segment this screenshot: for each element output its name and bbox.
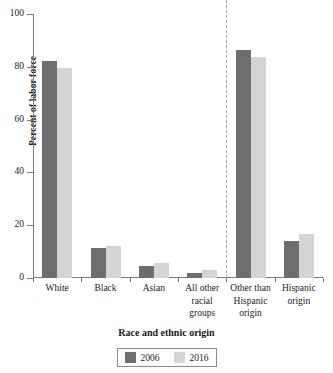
bar-chart: Percent of labor force 020406080100 Whit… (0, 0, 333, 373)
bar-2006-2 (139, 266, 154, 278)
bar-2016-1 (106, 246, 121, 278)
y-tick-label: 40 (15, 165, 25, 178)
legend-item-2016: 2016 (174, 352, 209, 363)
plot-area: 020406080100 (33, 14, 323, 278)
x-axis-title: Race and ethnic origin (0, 327, 333, 338)
legend-swatch-2006 (125, 352, 136, 363)
bar-2016-2 (154, 263, 169, 278)
dashed-divider-line (226, 0, 227, 278)
y-tick-label: 20 (15, 218, 25, 231)
y-tick: 100 (27, 14, 33, 15)
chart-legend: 2006 2016 (117, 348, 217, 367)
bar-2016-4 (251, 57, 266, 278)
x-category-label: Hispanicorigin (271, 282, 327, 307)
bar-2016-5 (299, 234, 314, 278)
bar-2006-5 (284, 241, 299, 278)
y-axis-line (33, 14, 34, 279)
y-tick-label: 80 (15, 60, 25, 73)
bar-2016-3 (202, 270, 217, 278)
x-category-label-line: origin (222, 307, 278, 320)
legend-item-2006: 2006 (125, 352, 160, 363)
bar-2006-1 (91, 248, 106, 278)
y-tick: 40 (27, 172, 33, 173)
y-tick: 20 (27, 225, 33, 226)
legend-swatch-2016 (174, 352, 185, 363)
y-tick-label: 60 (15, 113, 25, 126)
y-tick-label: 0 (19, 271, 24, 284)
y-tick: 80 (27, 67, 33, 68)
bar-2016-0 (57, 68, 72, 278)
x-category-label-line: Hispanic (271, 282, 327, 295)
legend-label-2006: 2006 (141, 353, 160, 363)
bar-2006-4 (236, 50, 251, 278)
legend-label-2016: 2016 (190, 353, 209, 363)
y-tick: 60 (27, 120, 33, 121)
y-tick-label: 100 (10, 7, 24, 20)
x-category-label-line: origin (271, 295, 327, 308)
bar-2006-3 (187, 273, 202, 278)
bar-2006-0 (42, 61, 57, 278)
